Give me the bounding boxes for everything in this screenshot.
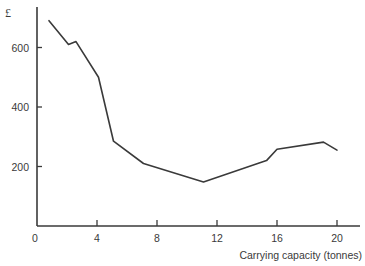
x-tick-label: 12 [211, 232, 223, 244]
data-line [49, 21, 337, 182]
x-axis-title: Carrying capacity (tonnes) [239, 249, 362, 261]
y-tick-label: 400 [11, 101, 29, 113]
ticks: 048121620200400600 [11, 42, 343, 245]
y-tick-label: 200 [11, 161, 29, 173]
x-tick-label: 0 [32, 232, 38, 244]
x-tick-label: 16 [271, 232, 283, 244]
x-tick-label: 20 [331, 232, 343, 244]
x-tick-label: 8 [154, 232, 160, 244]
x-tick-label: 4 [94, 232, 100, 244]
axes [37, 7, 360, 226]
line-chart: 048121620200400600 £ Carrying capacity (… [0, 0, 365, 266]
y-tick-label: 600 [11, 42, 29, 54]
y-axis-unit-label: £ [5, 6, 11, 20]
